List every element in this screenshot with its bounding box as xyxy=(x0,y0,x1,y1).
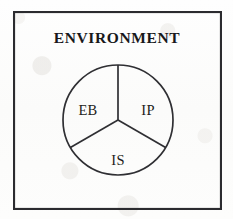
diagram-title: ENVIRONMENT xyxy=(54,29,180,46)
sector-label-is: IS xyxy=(111,152,125,168)
divider-down-left-line xyxy=(70,120,118,148)
divider-down-right-line xyxy=(118,120,166,148)
figure-canvas: ENVIRONMENT EB IP IS xyxy=(0,0,233,219)
environment-diagram: ENVIRONMENT EB IP IS xyxy=(0,0,233,219)
sector-label-eb: EB xyxy=(78,102,97,118)
sector-label-ip: IP xyxy=(141,102,155,118)
